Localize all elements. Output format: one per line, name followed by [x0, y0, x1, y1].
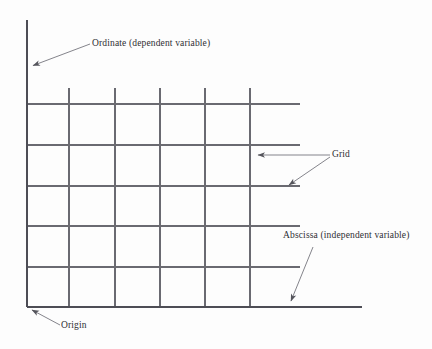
- abscissa-label: Abscissa (independent variable): [283, 231, 410, 241]
- origin-label: Origin: [61, 321, 87, 331]
- abscissa-leader-line: [291, 247, 313, 301]
- grid-vertical-lines: [69, 88, 250, 307]
- diagram-canvas: [0, 0, 432, 349]
- grid-label: Grid: [332, 150, 350, 160]
- ordinate-leader-line: [33, 44, 90, 66]
- grid-horizontal-lines: [27, 104, 300, 267]
- grid-leader-line-horizontal: [289, 157, 330, 185]
- graph-anatomy-figure: Ordinate (dependent variable) Grid Absci…: [0, 0, 432, 349]
- origin-leader-line: [32, 310, 60, 325]
- ordinate-label: Ordinate (dependent variable): [92, 39, 210, 49]
